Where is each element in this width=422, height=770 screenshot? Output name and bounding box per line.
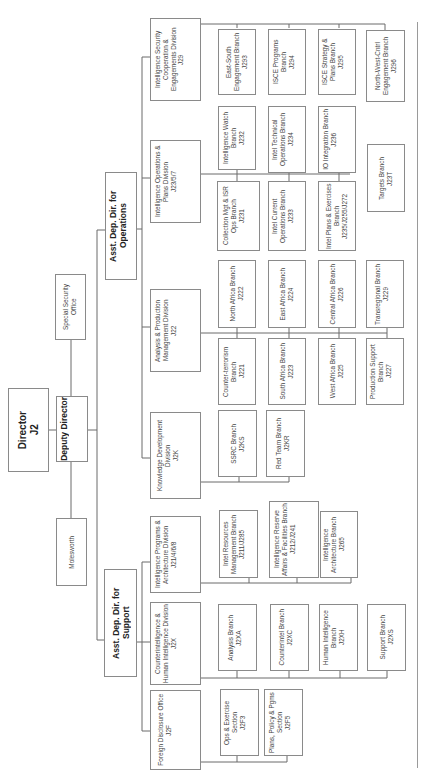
division-j21[interactable]: Intelligence Programs & Architecture Div… (150, 516, 201, 593)
branch-label: Intel Current Operations Branch (271, 189, 286, 242)
branch-j2xc[interactable]: Counterintel BranchJ2XC (270, 604, 309, 671)
branch-code: J23T (386, 157, 394, 200)
director-code: J2 (29, 411, 41, 449)
add-support-box[interactable]: Asst. Dep. Dir. for Support (104, 569, 137, 677)
branch-j221[interactable]: Counter-terrorism BranchJ221 (218, 338, 256, 405)
molesworth-box[interactable]: Molesworth (56, 518, 87, 586)
branch-code: J2F3 (238, 690, 246, 755)
division-label: Knowledge Development Division (156, 420, 171, 491)
branch-j223[interactable]: South Africa BranchJ223 (268, 338, 306, 405)
branch-code: J295 (337, 30, 345, 94)
branch-label: West Africa Branch (329, 344, 336, 398)
division-code: J2X (169, 603, 177, 684)
branch-j229[interactable]: Transregional BranchJ229 (366, 260, 404, 328)
branch-j294[interactable]: ISCE Programs BranchJ294 (268, 29, 306, 95)
branch-code: J265 (338, 512, 346, 577)
division-code: J2K (171, 413, 179, 498)
branch-j265[interactable]: Intelligence Architecture BranchJ265 (320, 511, 358, 578)
division-j23[interactable]: Intelligence Operations & Plans Division… (150, 140, 201, 223)
branch-j224[interactable]: East Africa BranchJ224 (268, 260, 306, 328)
branch-label: ISCE Programs Branch (272, 40, 287, 84)
branch-label: Intelligence Reserve Affairs & Facilitie… (273, 503, 288, 576)
branch-j227[interactable]: Production Support BranchJ227 (366, 338, 404, 405)
branch-j23t[interactable]: Targets BranchJ23T (367, 144, 405, 212)
branch-j293[interactable]: East-South Engagement BranchJ293 (218, 29, 256, 95)
branch-j211[interactable]: Intel Resources Management BranchJ211/J2… (219, 510, 258, 578)
branch-code: J221 (238, 339, 246, 404)
branch-j2xh[interactable]: Human Intelligence BranchJ2XH (319, 604, 358, 671)
branch-label: Intelligence Watch Branch (222, 112, 237, 164)
branch-code: J234 (287, 107, 295, 172)
branch-j234[interactable]: Intel Technical Operations BranchJ234 (268, 106, 306, 173)
branch-label: Plans, Policy & Pgms Section (268, 692, 283, 753)
division-label: Intelligence Programs & Architecture Div… (154, 521, 169, 589)
add-operations-label: Asst. Dep. Dir. for Operations (108, 190, 128, 261)
branch-label: Analysis Branch (227, 615, 234, 661)
branch-label: Intelligence Architecture Branch (322, 516, 337, 572)
branch-j295[interactable]: ISCE Strategy & Plans BranchJ295 (318, 29, 356, 95)
branch-code: J294 (288, 30, 296, 94)
branch-j225[interactable]: West Africa BranchJ225 (318, 338, 356, 405)
branch-j2xs[interactable]: Support BranchJ2XS (367, 604, 406, 671)
branch-j212[interactable]: Intelligence Reserve Affairs & Facilitie… (269, 501, 319, 578)
special-security-office-box[interactable]: Special Security Office (55, 274, 86, 340)
division-label: Intelligence Operations & Plans Division (154, 146, 169, 217)
branch-label: Counterintel Branch (278, 609, 285, 665)
branch-code: J2XC (285, 609, 293, 665)
branch-code: J293 (241, 30, 249, 94)
division-j29[interactable]: Intelligence Security Cooperation & Enga… (150, 18, 201, 101)
branch-label: South Africa Branch (279, 343, 286, 399)
branch-code: J226 (337, 264, 345, 324)
branch-label: East-South Engagement Branch (225, 33, 240, 91)
division-code: J21/4/6/8 (169, 517, 177, 592)
division-label: Foreign Disclosure Office (157, 694, 164, 766)
division-j2x[interactable]: Counterintelligence & Human Intelligence… (150, 602, 201, 685)
branch-j2ks[interactable]: SSRC BranchJ2KS (218, 410, 257, 477)
branch-code: J225 (337, 344, 345, 398)
branch-j235[interactable]: Intel Plans & Exercises BranchJ235/J255/… (318, 181, 356, 251)
branch-label: Central Africa Branch (329, 264, 336, 324)
branch-j2kr[interactable]: Red Team BranchJ2KR (266, 410, 305, 477)
branch-j231[interactable]: Collection Mgt & ISR Ops BranchJ231 (217, 181, 260, 251)
division-j22[interactable]: Analysis & Production Management Divisio… (150, 289, 201, 372)
branch-label: Ops & Exercise Section (223, 700, 238, 744)
division-code: J29 (177, 19, 185, 100)
branch-code: J222 (237, 266, 245, 321)
molesworth-label: Molesworth (68, 536, 75, 569)
branch-label: ISCE Strategy & Plans Branch (321, 39, 336, 86)
branch-j296[interactable]: North-West-Cntrl Engagement BranchJ296 (366, 30, 405, 102)
branch-label: Counter-terrorism Branch (222, 346, 237, 396)
branch-code: J2KR (282, 418, 290, 469)
director-box[interactable]: DirectorJ2 (8, 388, 49, 472)
branch-j233[interactable]: Intel Current Operations BranchJ233 (268, 181, 306, 251)
deputy-director-box[interactable]: Deputy Director (56, 396, 88, 462)
add-operations-box[interactable]: Asst. Dep. Dir. for Operations (105, 172, 137, 280)
director-label: Director (17, 411, 28, 449)
section-j2f3[interactable]: Ops & Exercise SectionJ2F3 (220, 689, 259, 756)
division-code: J23/5/7 (169, 141, 177, 222)
special-security-office-label: Special Security Office (62, 284, 77, 330)
division-j2k[interactable]: Knowledge Development DivisionJ2K (150, 412, 201, 499)
division-j2f[interactable]: Foreign Disclosure OfficeJ2F (150, 690, 201, 770)
branch-label: Intel Plans & Exercises Branch (325, 183, 340, 248)
division-label: Analysis & Production Management Divisio… (154, 299, 169, 361)
branch-code: J229 (382, 264, 390, 325)
branch-code: J233 (287, 182, 295, 250)
branch-label: East Africa Branch (279, 268, 286, 321)
branch-label: Targets Branch (378, 157, 385, 200)
branch-code: J2XH (337, 605, 345, 670)
add-support-label: Asst. Dep. Dir. for Support (111, 587, 131, 658)
branch-j222[interactable]: North Africa BranchJ222 (218, 260, 256, 328)
branch-code: J231 (237, 182, 245, 250)
branch-j236[interactable]: IO Integration BranchJ236 (318, 106, 356, 173)
branch-code: J235/J255/J272 (341, 182, 349, 250)
branch-j232[interactable]: Intelligence Watch BranchJ232 (218, 106, 256, 170)
branch-code: J211/J285 (237, 511, 245, 577)
branch-code: J2KS (238, 424, 246, 464)
section-j2f5[interactable]: Plans, Policy & Pgms SectionJ2F5 (264, 689, 303, 756)
branch-code: J224 (287, 268, 295, 321)
branch-j2xa[interactable]: Analysis BranchJ2XA (218, 604, 257, 671)
branch-j226[interactable]: Central Africa BranchJ226 (318, 260, 356, 328)
